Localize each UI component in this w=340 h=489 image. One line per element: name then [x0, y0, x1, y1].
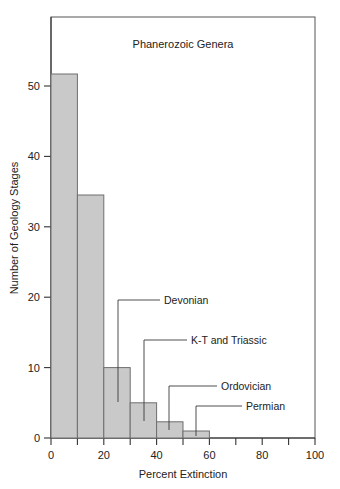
annotation-label-kt-and-triassic: K-T and Triassic: [191, 334, 267, 346]
x-tick-label-100: 100: [306, 449, 324, 461]
x-tick-label-80: 80: [256, 449, 268, 461]
y-tick-label-50: 50: [28, 80, 40, 92]
annotation-label-devonian: Devonian: [164, 294, 209, 306]
histogram-svg: Phanerozoic Genera 0 10 20 30 40 50: [0, 0, 340, 489]
y-tick-label-20: 20: [28, 291, 40, 303]
x-axis-tick-labels: 0 20 40 60 80 100: [48, 449, 324, 461]
y-tick-label-0: 0: [34, 432, 40, 444]
bar-0-10: [51, 74, 77, 438]
x-tick-label-0: 0: [48, 449, 54, 461]
x-tick-label-60: 60: [203, 449, 215, 461]
annotation-label-ordovician: Ordovician: [221, 380, 271, 392]
bar-30-40: [130, 403, 156, 438]
chart-title: Phanerozoic Genera: [133, 38, 235, 50]
y-tick-label-10: 10: [28, 362, 40, 374]
y-tick-label-30: 30: [28, 221, 40, 233]
y-axis-ticks: [44, 86, 51, 438]
y-axis-title: Number of Geology Stages: [8, 161, 20, 294]
annotation-label-permian: Permian: [246, 400, 285, 412]
bar-40-50: [157, 422, 183, 438]
x-axis-ticks: [51, 438, 315, 445]
bar-20-30: [104, 368, 130, 438]
chart-figure: Phanerozoic Genera 0 10 20 30 40 50: [0, 0, 340, 489]
bar-series: [51, 74, 209, 438]
y-tick-label-40: 40: [28, 150, 40, 162]
annotation-labels: Devonian K-T and Triassic Ordovician Per…: [164, 294, 285, 412]
x-axis-title: Percent Extinction: [139, 468, 228, 480]
y-axis-tick-labels: 0 10 20 30 40 50: [28, 80, 40, 444]
x-tick-label-20: 20: [98, 449, 110, 461]
x-tick-label-40: 40: [150, 449, 162, 461]
bar-10-20: [77, 195, 103, 438]
